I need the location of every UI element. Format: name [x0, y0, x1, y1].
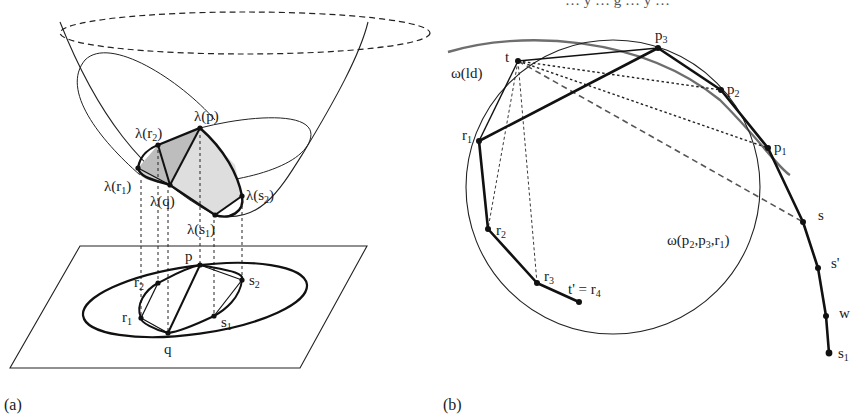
label-p2: p2 [727, 81, 740, 99]
point-lambda-q [167, 182, 172, 187]
label-w: w [839, 305, 850, 321]
edge-t-r1 [479, 61, 518, 141]
circle-omega-p2-p3-r1 [466, 40, 760, 334]
point-s1 [211, 313, 216, 318]
dashed-line-t-s [518, 61, 803, 222]
point-s2 [239, 277, 244, 282]
top-cut-text: … y … g … y … [565, 0, 670, 8]
point-r2 [485, 226, 491, 232]
point-lambda-s2 [239, 193, 244, 198]
label-t-prime-r4: t' = r4 [568, 281, 601, 299]
ground-plane [10, 246, 367, 368]
point-lambda-r1 [135, 165, 140, 170]
figure: … y … g … y … [0, 0, 867, 420]
label-lambda-s2: λ(s2) [246, 187, 274, 205]
point-r1 [476, 138, 482, 144]
label-p: p [185, 248, 193, 264]
point-r3 [534, 280, 540, 286]
label-p3: p3 [655, 27, 668, 45]
label-p1: p1 [774, 139, 787, 157]
point-p [197, 262, 202, 267]
point-q [165, 330, 170, 335]
point-s [800, 219, 806, 225]
label-r3: r3 [544, 268, 554, 286]
arc-omega-ld [448, 40, 790, 175]
panel-a: λ(p) λ(r2) λ(r1) λ(q) λ(s2) λ(s1) p q r1… [4, 12, 430, 414]
label-q: q [164, 341, 172, 357]
point-p2 [718, 87, 724, 93]
point-lambda-r2 [155, 142, 160, 147]
paraboloid-rim [60, 12, 430, 54]
label-r1: r1 [462, 127, 472, 145]
point-p1 [765, 145, 771, 151]
label-lambda-s1: λ(s1) [187, 221, 215, 239]
thin-dashed-lines-from-t [488, 61, 537, 283]
panel-b: ω(ld) t p3 p2 p1 r1 r2 r3 t' = r4 ω(p2,p… [443, 27, 850, 414]
thick-polyline [479, 48, 829, 353]
label-s: s [818, 207, 824, 223]
point-r1 [138, 315, 143, 320]
label-lambda-r1: λ(r1) [104, 178, 131, 196]
label-omega-circle: ω(p2,p3,r1) [667, 232, 729, 250]
point-s1 [826, 350, 833, 357]
point-s-prime [815, 265, 821, 271]
label-lambda-q: λ(q) [150, 193, 175, 210]
diagram-canvas: … y … g … y … [0, 0, 867, 420]
point-t [515, 58, 521, 64]
label-lambda-p: λ(p) [194, 108, 219, 125]
point-w [823, 313, 829, 319]
label-s1: s1 [838, 345, 849, 363]
caption-a: (a) [4, 396, 22, 414]
dotted-lines-from-t [518, 61, 768, 148]
point-lambda-p [197, 125, 202, 130]
label-omega-ld: ω(ld) [451, 65, 483, 82]
point-t-prime-r4 [576, 299, 582, 305]
label-lambda-r2: λ(r2) [135, 125, 162, 143]
caption-b: (b) [443, 396, 462, 414]
point-lambda-s1 [212, 212, 217, 217]
label-t: t [505, 49, 510, 65]
label-s-prime: s' [831, 255, 840, 271]
point-r2 [155, 280, 160, 285]
point-p3 [655, 45, 661, 51]
label-r2: r2 [496, 222, 506, 240]
